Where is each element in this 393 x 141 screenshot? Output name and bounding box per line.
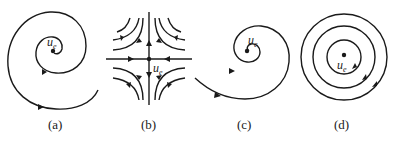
equilibrium-point-d <box>342 53 346 57</box>
trajectory <box>159 18 185 40</box>
caption-a: (a) <box>48 117 62 132</box>
caption-b: (b) <box>141 117 156 132</box>
equilibrium-point-b <box>147 57 151 61</box>
arrow-icon <box>164 56 170 62</box>
panel-b: ue (b) <box>106 12 192 132</box>
trajectory <box>113 78 139 100</box>
trajectory <box>159 78 185 100</box>
trajectory <box>117 18 130 32</box>
arrow-icon <box>372 81 377 87</box>
trajectory <box>168 18 181 32</box>
caption-d: (d) <box>334 117 349 132</box>
trajectory <box>113 18 139 40</box>
point-label-c: ue <box>248 33 258 49</box>
caption-c: (c) <box>237 117 251 132</box>
panel-c: ue (c) <box>195 26 289 132</box>
arrow-icon <box>146 40 152 46</box>
panel-a: ue (a) <box>8 12 98 132</box>
spiral-trajectory-c <box>195 26 289 99</box>
arrow-icon <box>38 104 44 110</box>
point-label-b: ue <box>153 61 163 77</box>
arrow-icon <box>229 68 235 74</box>
arrow-icon <box>128 56 134 62</box>
phase-portrait-figure: ue (a) ue (b) <box>0 0 393 141</box>
equilibrium-point-c <box>245 49 249 53</box>
arrow-icon <box>362 74 367 80</box>
point-label-d: ue <box>337 58 347 74</box>
spiral-trajectory-a <box>8 12 98 109</box>
panel-d: ue (d) <box>301 14 387 132</box>
arrow-icon <box>146 72 152 78</box>
